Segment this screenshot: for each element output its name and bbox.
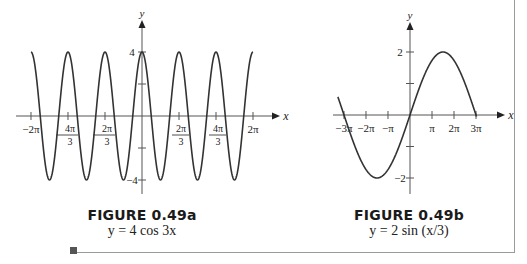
y-axis-arrow-icon <box>407 22 414 30</box>
x-tick-label: π <box>429 122 435 134</box>
frame-border-right <box>514 0 515 253</box>
x-axis-arrow-icon <box>272 113 280 120</box>
y-axis-label: y <box>139 7 145 19</box>
y-axis-label: y <box>407 9 413 21</box>
x-tick-label-numerator: 2π <box>176 123 186 134</box>
x-tick-label-numerator: 4π <box>213 123 223 134</box>
x-tick-label-numerator: 2π <box>102 123 112 134</box>
x-tick-label-numerator: 4π <box>65 123 75 134</box>
caption-b: FIGURE 0.49b y = 2 sin (x/3) <box>309 207 509 239</box>
x-tick-label: 2π <box>448 122 460 134</box>
y-axis-arrow-icon <box>139 20 146 28</box>
plot-a: xy−2π4π32π32π34π32π−44 <box>16 7 289 194</box>
y-tick-label: −2 <box>394 172 406 184</box>
y-tick-label: −4 <box>126 174 138 186</box>
x-tick-label: −π <box>382 122 394 134</box>
figure-a-label: FIGURE 0.49a <box>42 207 242 223</box>
x-tick-label-denominator: 3 <box>179 136 184 147</box>
plot-b: xy−3π−2π−ππ2π3π−22 <box>333 9 514 194</box>
x-axis-arrow-icon <box>497 112 505 119</box>
figure-b-equation: y = 2 sin (x/3) <box>309 223 509 239</box>
frame-border-bottom <box>72 252 515 253</box>
figure-b-label: FIGURE 0.49b <box>309 207 509 223</box>
y-tick-label: 2 <box>397 46 403 58</box>
caption-a: FIGURE 0.49a y = 4 cos 3x <box>42 207 242 239</box>
x-tick-label: −2π <box>357 122 375 134</box>
x-tick-label: 2π <box>247 123 259 135</box>
x-tick-label-denominator: 3 <box>67 136 72 147</box>
x-tick-label: −2π <box>22 123 40 135</box>
figure-a-equation: y = 4 cos 3x <box>42 223 242 239</box>
y-tick-label: 4 <box>129 46 135 58</box>
x-tick-label-denominator: 3 <box>104 136 109 147</box>
x-axis-label: x <box>282 109 289 123</box>
end-marker-square <box>70 247 77 254</box>
x-tick-label: 3π <box>470 122 482 134</box>
x-tick-label-denominator: 3 <box>216 136 221 147</box>
